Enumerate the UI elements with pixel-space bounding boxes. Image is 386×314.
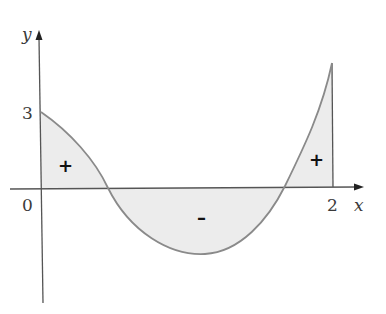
x-tick-label: 2 — [327, 195, 338, 215]
y-axis-arrow-icon — [36, 30, 43, 40]
y-tick-label: 3 — [22, 103, 33, 123]
shaded-area — [41, 63, 333, 254]
positive-sign-left: + — [58, 155, 73, 176]
x-axis-label: x — [354, 195, 364, 215]
positive-sign-right: + — [309, 149, 324, 170]
negative-sign-middle: – — [197, 207, 206, 228]
x-axis-arrow-icon — [354, 184, 364, 191]
origin-label: 0 — [22, 195, 33, 215]
net-area-diagram: y 3 0 2 x + – + — [0, 0, 386, 314]
y-axis-label: y — [21, 24, 32, 44]
